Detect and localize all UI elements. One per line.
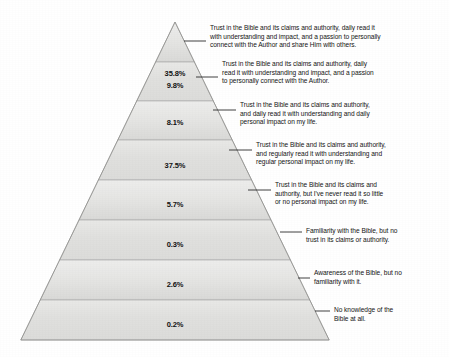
pyramid-callout-level-2: Trust in the Bible and its claims and au… xyxy=(222,60,448,86)
pyramid-callout-level-3: Trust in the Bible and its claims and au… xyxy=(240,101,448,127)
pyramid-value-level-1: 35.8% xyxy=(165,69,186,78)
pyramid-band-4 xyxy=(98,140,251,180)
pyramid-value-level-6: 0.3% xyxy=(167,240,184,249)
pyramid-graphic xyxy=(0,0,449,357)
pyramid-callout-level-8: No knowledge of the Bible at all. xyxy=(334,306,448,323)
pyramid-value-level-5: 5.7% xyxy=(167,200,184,209)
pyramid-callout-level-6: Familiarity with the Bible, but no trust… xyxy=(306,227,448,244)
pyramid-chart: 35.8% 9.8% 8.1% 37.5% 5.7% 0.3% 2.6% 0.2… xyxy=(0,0,449,357)
pyramid-value-level-7: 2.6% xyxy=(167,280,184,289)
pyramid-callout-level-4: Trust in the Bible and its claims and au… xyxy=(256,141,448,167)
pyramid-value-level-3: 8.1% xyxy=(167,118,184,127)
pyramid-band-1 xyxy=(156,22,195,62)
pyramid-value-level-8: 0.2% xyxy=(167,320,184,329)
pyramid-callout-level-5: Trust in the Bible and its claims and au… xyxy=(275,181,448,207)
pyramid-value-level-2: 9.8% xyxy=(167,81,184,90)
pyramid-callout-level-1: Trust in the Bible and its claims and au… xyxy=(210,24,448,50)
pyramid-callout-level-7: Awareness of the Bible, but no familiari… xyxy=(314,269,448,286)
pyramid-value-level-4: 37.5% xyxy=(165,161,186,170)
